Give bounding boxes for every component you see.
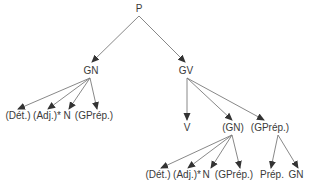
node-sub-n: N xyxy=(202,169,209,181)
node-gn-gprep: (GPrép.) xyxy=(75,110,113,122)
node-gn-det: (Dét.) xyxy=(6,110,31,122)
arrow-p-to-gn xyxy=(92,16,139,62)
arrow-gv-gprep-to-sub-prep xyxy=(271,135,278,168)
node-gn-n: N xyxy=(63,110,70,122)
node-sub-gn: GN xyxy=(289,169,304,181)
syntax-tree-diagram: PGNGV(Dét.)(Adj.)*N(GPrép.)V(GN)(GPrép.)… xyxy=(0,0,309,186)
node-gv-gprep: (GPrép.) xyxy=(251,122,289,134)
node-sub-det: (Dét.) xyxy=(146,169,171,181)
node-gv-gn: (GN) xyxy=(222,122,244,134)
arrow-gv-gprep-to-sub-gn xyxy=(278,135,298,168)
node-gn: GN xyxy=(84,65,99,77)
node-gv: GV xyxy=(179,65,193,77)
node-sub-gprep: (GPrép.) xyxy=(215,169,253,181)
node-gn-adj: (Adj.)* xyxy=(33,110,61,122)
node-p: P xyxy=(136,3,143,15)
node-sub-prep: Prép. xyxy=(260,169,284,181)
arrow-p-to-gv xyxy=(139,16,185,62)
node-gv-v: V xyxy=(184,122,191,134)
arrow-gv-gn-to-sub-adj xyxy=(188,135,232,168)
arrow-gv-gn-to-sub-gprep xyxy=(232,135,240,168)
tree-edges xyxy=(0,0,309,186)
arrow-gn-to-gn-gprep xyxy=(90,78,97,109)
node-sub-adj: (Adj.)* xyxy=(173,169,201,181)
